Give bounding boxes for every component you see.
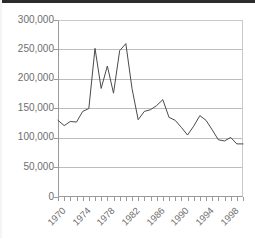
- x-axis-tick: [83, 197, 84, 201]
- x-axis-tick: [95, 197, 96, 201]
- x-axis-tick: [77, 197, 78, 201]
- x-axis-label: 1978: [91, 205, 117, 231]
- data-series-line: [58, 20, 243, 197]
- y-axis-label-group: 300,000 250,000 200,000 150,000 100,000 …: [0, 0, 54, 241]
- x-axis-tick: [58, 197, 59, 201]
- y-axis-label: 50,000: [0, 162, 54, 172]
- x-axis-tick: [225, 197, 226, 201]
- x-axis-label: 1986: [140, 205, 166, 231]
- y-axis-label: 250,000: [0, 44, 54, 54]
- x-axis-tick: [114, 197, 115, 201]
- x-axis-tick: [89, 197, 90, 201]
- series-polyline: [58, 44, 243, 144]
- x-axis-label: 1994: [190, 205, 216, 231]
- x-axis-tick: [126, 197, 127, 201]
- x-axis-label: 1982: [116, 205, 142, 231]
- x-axis-tick: [163, 197, 164, 201]
- x-axis-tick: [237, 197, 238, 201]
- x-axis-tick: [120, 197, 121, 201]
- x-axis-tick: [243, 197, 244, 201]
- y-axis-label: 150,000: [0, 103, 54, 113]
- y-axis-label: 200,000: [0, 73, 54, 83]
- y-axis-label: 300,000: [0, 15, 54, 25]
- x-axis-tick: [181, 197, 182, 201]
- x-axis-tick: [218, 197, 219, 201]
- x-axis-tick: [64, 197, 65, 201]
- x-axis-tick: [188, 197, 189, 201]
- x-axis-tick: [70, 197, 71, 201]
- x-axis-tick: [151, 197, 152, 201]
- x-axis-tick: [194, 197, 195, 201]
- x-axis-label: 1998: [214, 205, 240, 231]
- x-axis-tick: [144, 197, 145, 201]
- x-axis-label: 1990: [165, 205, 191, 231]
- x-axis-tick: [231, 197, 232, 201]
- x-axis-tick: [132, 197, 133, 201]
- chart-screenshot: 300,000 250,000 200,000 150,000 100,000 …: [0, 0, 255, 241]
- x-axis-tick: [169, 197, 170, 201]
- x-axis-tick: [175, 197, 176, 201]
- x-axis-tick: [200, 197, 201, 201]
- y-axis-label: 100,000: [0, 132, 54, 142]
- x-axis-tick: [138, 197, 139, 201]
- x-axis-label: 1974: [66, 205, 92, 231]
- x-axis-tick: [212, 197, 213, 201]
- x-axis-tick: [107, 197, 108, 201]
- x-axis-tick: [101, 197, 102, 201]
- x-axis-tick: [157, 197, 158, 201]
- x-axis-tick: [206, 197, 207, 201]
- y-axis-label: 0: [0, 192, 54, 202]
